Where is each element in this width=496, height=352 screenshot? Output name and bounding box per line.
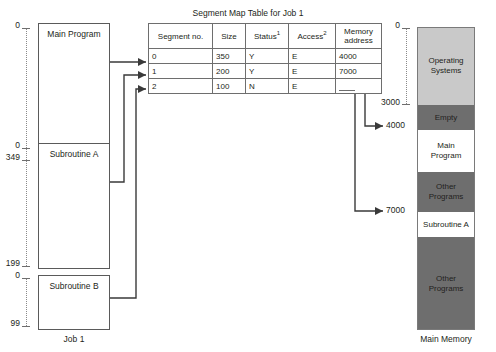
ruler-cap-suba-top xyxy=(22,148,30,149)
ruler-cap-subb-bottom xyxy=(22,326,30,327)
table-row: 1 200 Y E 7000 xyxy=(149,64,382,79)
job-block-main-program: Main Program xyxy=(38,23,110,163)
memory-block-subroutine-a: Subroutine A xyxy=(417,212,475,237)
memory-block-other-programs-1: Other Programs xyxy=(417,172,475,212)
ruler-subroutine-a-line xyxy=(26,148,27,266)
header-status-superscript: 1 xyxy=(277,30,280,36)
table-row: 0 350 Y E 4000 xyxy=(149,49,382,64)
memory-tick-4000: 4000 xyxy=(386,121,416,130)
header-access-superscript: 2 xyxy=(323,30,326,36)
header-status: Status1 xyxy=(246,24,289,49)
memory-block-operating-systems: Operating Systems xyxy=(417,27,475,105)
memory-block-main-program: Main Program xyxy=(417,130,475,172)
segmentation-diagram: 0 349 Main Program 0 199 Subroutine A 0 … xyxy=(0,0,496,352)
cell-memory-address: 4000 xyxy=(336,49,382,64)
memory-tick-0: 0 xyxy=(370,21,400,30)
ruler-main-program xyxy=(26,28,27,160)
cell-segment-no: 2 xyxy=(149,79,213,94)
table-row: 2 100 N E xyxy=(149,79,382,94)
table-title: Segment Map Table for Job 1 xyxy=(148,8,348,18)
memory-block-other-programs-2: Other Programs xyxy=(417,237,475,330)
job-block-subroutine-b: Subroutine B xyxy=(38,275,110,330)
tick-subb-start: 0 xyxy=(0,271,20,280)
ruler-subroutine-b xyxy=(26,278,27,326)
table-header-row: Segment no. Size Status1 Access2 Memory … xyxy=(149,24,382,49)
header-segment-no: Segment no. xyxy=(149,24,213,49)
ruler-cap-subb-top xyxy=(22,278,30,279)
ruler-cap-mem-top xyxy=(402,28,410,29)
segment-map-table: Segment no. Size Status1 Access2 Memory … xyxy=(148,23,382,94)
cell-access: E xyxy=(289,79,336,94)
ruler-cap-suba-bottom xyxy=(22,266,30,267)
tick-main-start: 0 xyxy=(0,21,20,30)
header-size: Size xyxy=(213,24,246,49)
memory-block-empty: Empty xyxy=(417,105,475,130)
job-block-subroutine-a: Subroutine A xyxy=(38,143,110,269)
header-access: Access2 xyxy=(289,24,336,49)
cell-size: 350 xyxy=(213,49,246,64)
cell-access: E xyxy=(289,64,336,79)
tick-main-end: 349 xyxy=(0,153,20,162)
memory-tick-7000: 7000 xyxy=(386,206,416,215)
tick-suba-start: 0 xyxy=(0,141,20,150)
tick-subb-end: 99 xyxy=(0,319,20,328)
segment-map-table-wrapper: Segment no. Size Status1 Access2 Memory … xyxy=(148,23,382,94)
job-block-label: Subroutine A xyxy=(39,149,109,159)
header-access-text: Access xyxy=(297,32,323,41)
cell-status: Y xyxy=(246,49,289,64)
memory-tick-3000: 3000 xyxy=(370,98,400,107)
header-status-text: Status xyxy=(254,32,277,41)
ruler-memory xyxy=(406,28,407,104)
job-block-label: Subroutine B xyxy=(39,281,109,291)
cell-status: Y xyxy=(246,64,289,79)
cell-size: 100 xyxy=(213,79,246,94)
job-caption: Job 1 xyxy=(38,334,110,344)
cell-segment-no: 1 xyxy=(149,64,213,79)
cell-segment-no: 0 xyxy=(149,49,213,64)
ruler-cap-mem-3000 xyxy=(402,104,410,105)
job-block-label: Main Program xyxy=(39,29,109,39)
cell-memory-address: 7000 xyxy=(336,64,382,79)
blank-dash-mark xyxy=(339,83,355,91)
cell-access: E xyxy=(289,49,336,64)
cell-memory-address-empty xyxy=(336,79,382,94)
tick-suba-end: 199 xyxy=(0,259,20,268)
main-memory-caption: Main Memory xyxy=(412,334,480,344)
cell-status: N xyxy=(246,79,289,94)
cell-size: 200 xyxy=(213,64,246,79)
ruler-cap-main-top xyxy=(22,28,30,29)
